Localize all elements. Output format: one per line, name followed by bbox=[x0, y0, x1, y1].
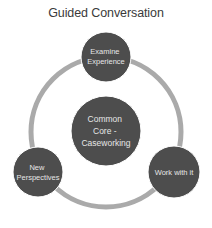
node-line: Examine bbox=[90, 47, 119, 56]
node-new-perspectives: New Perspectives bbox=[13, 147, 63, 197]
node-line: Work with it bbox=[155, 168, 195, 177]
center-node-line: Common bbox=[88, 114, 123, 124]
node-line: Perspectives bbox=[17, 173, 60, 182]
node-line: New bbox=[29, 163, 45, 172]
center-node-line: Core - bbox=[93, 126, 117, 136]
center-node: Common Core - Caseworking bbox=[71, 96, 141, 166]
node-work-with-it: Work with it bbox=[148, 146, 200, 198]
node-examine-experience-label: Examine Experience bbox=[87, 47, 125, 66]
node-examine-experience: Examine Experience bbox=[81, 32, 131, 82]
center-node-line: Caseworking bbox=[81, 138, 130, 148]
node-work-with-it-label: Work with it bbox=[155, 168, 195, 177]
node-line: Experience bbox=[87, 57, 125, 66]
cycle-diagram: Common Core - Caseworking Examine Experi… bbox=[0, 0, 212, 228]
node-new-perspectives-circle bbox=[13, 147, 63, 197]
